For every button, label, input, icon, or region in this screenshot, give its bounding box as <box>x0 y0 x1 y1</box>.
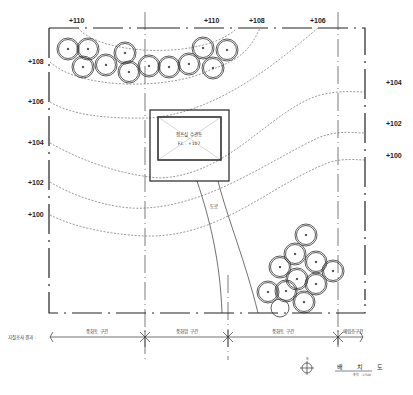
grid-lines <box>145 12 338 360</box>
svg-text:+100: +100 <box>386 152 402 159</box>
svg-text:+106: +106 <box>28 98 44 105</box>
contour-lines <box>50 28 365 236</box>
svg-text:+106: +106 <box>310 17 326 24</box>
svg-text:+108: +108 <box>28 58 44 65</box>
svg-text:+102: +102 <box>386 120 402 127</box>
drawing-title: 배 치 도 <box>337 363 389 371</box>
road-label: 도로 <box>210 204 218 209</box>
north-arrow-icon <box>300 361 314 375</box>
geology-segment-3: 풍화토 구간 <box>272 328 293 335</box>
svg-text:+110: +110 <box>69 17 84 24</box>
contour-labels-top: +110 +110 +108 +106 <box>69 17 326 24</box>
svg-text:+104: +104 <box>386 79 402 86</box>
contour-labels-left: +108 +106 +104 +102 +100 <box>28 58 44 218</box>
geology-segment-1: 풍화토 구간 <box>86 328 107 335</box>
north-label: 북 <box>306 356 309 361</box>
geology-label: 지질조사 결과 : <box>8 334 36 341</box>
contour-labels-right: +104 +102 +100 <box>386 79 402 159</box>
site-plan-drawing: 도로 펌프실 수관동 F.L : +107 <box>0 0 413 395</box>
geology-segment-4: 매립층구간 <box>343 328 363 335</box>
svg-text:+104: +104 <box>28 139 44 146</box>
svg-text:+100: +100 <box>28 211 44 218</box>
svg-text:+108: +108 <box>249 17 265 24</box>
svg-text:+102: +102 <box>28 179 44 186</box>
scale-note: 축척 : 1/500 <box>353 372 371 377</box>
road <box>197 181 258 313</box>
tree-cluster-bottom <box>257 224 344 317</box>
building-floor-level: F.L : +107 <box>178 141 201 146</box>
geology-segment-2: 풍화암 구간 <box>176 328 197 335</box>
building-name: 펌프실 수관동 <box>176 131 201 138</box>
tree-cluster-top <box>57 37 238 83</box>
svg-text:+110: +110 <box>204 17 219 24</box>
